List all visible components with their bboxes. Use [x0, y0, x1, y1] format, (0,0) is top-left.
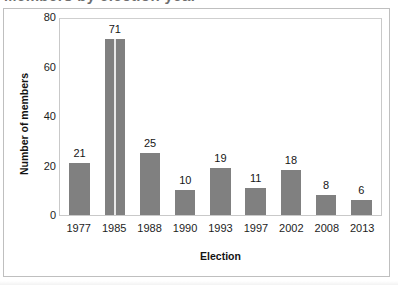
- x-axis-tick-label: 1985: [96, 222, 131, 234]
- bar-value-label: 18: [285, 154, 297, 166]
- bar-slot: 11: [238, 19, 273, 215]
- x-axis-title: Election: [59, 250, 382, 262]
- x-axis-tick-label: 1997: [238, 222, 273, 234]
- bar-slot: 18: [273, 19, 308, 215]
- x-axis-tick-label: 1990: [167, 222, 202, 234]
- bar-value-label: 10: [179, 174, 191, 186]
- x-axis-tick-label: 2008: [309, 222, 344, 234]
- y-axis-tick-labels: 020406080: [30, 0, 56, 285]
- x-axis-tick-label: 2013: [345, 222, 380, 234]
- x-axis-tick-label: 1977: [61, 222, 96, 234]
- bar-value-label: 6: [358, 184, 364, 196]
- bar[interactable]: 25: [140, 153, 160, 215]
- x-axis-tick-labels: 197719851988199019931997200220082013: [61, 222, 380, 234]
- bar[interactable]: 19: [210, 168, 230, 215]
- x-axis-tick-label: 1988: [132, 222, 167, 234]
- bar[interactable]: 18: [281, 170, 301, 215]
- bar-value-label: 8: [323, 179, 329, 191]
- y-axis-title: Number of members: [18, 59, 30, 189]
- bar-slot: 21: [62, 19, 97, 215]
- x-axis-tick-label: 1993: [203, 222, 238, 234]
- y-axis-tick-label: 80: [30, 12, 56, 23]
- bar-slot: 10: [168, 19, 203, 215]
- y-axis-tick-label: 40: [30, 111, 56, 122]
- bar-value-label: 21: [73, 147, 85, 159]
- plot-area: 2171251019111886: [59, 18, 382, 216]
- scan-fold-artifact: [114, 39, 116, 215]
- bar[interactable]: 6: [351, 200, 371, 215]
- bar-value-label: 19: [214, 152, 226, 164]
- x-axis-tick-label: 2002: [274, 222, 309, 234]
- y-axis-tick-label: 20: [30, 161, 56, 172]
- bar[interactable]: 10: [175, 190, 195, 215]
- bar-value-label: 71: [109, 23, 121, 35]
- bar-slot: 25: [132, 19, 167, 215]
- bar[interactable]: 71: [105, 39, 125, 215]
- bar[interactable]: 11: [245, 188, 265, 215]
- bar-slot: 71: [97, 19, 132, 215]
- bar-chart: Number of members 020406080 217125101911…: [0, 0, 398, 285]
- y-axis-tick-label: 0: [30, 210, 56, 221]
- bars-row: 2171251019111886: [62, 19, 379, 215]
- bar-slot: 8: [309, 19, 344, 215]
- bar-slot: 19: [203, 19, 238, 215]
- y-axis-tick-label: 60: [30, 62, 56, 73]
- bar-value-label: 11: [250, 172, 261, 184]
- bar[interactable]: 21: [69, 163, 89, 215]
- plot-inner: 2171251019111886: [60, 19, 381, 215]
- bar-value-label: 25: [144, 137, 156, 149]
- bar-slot: 6: [344, 19, 379, 215]
- bar[interactable]: 8: [316, 195, 336, 215]
